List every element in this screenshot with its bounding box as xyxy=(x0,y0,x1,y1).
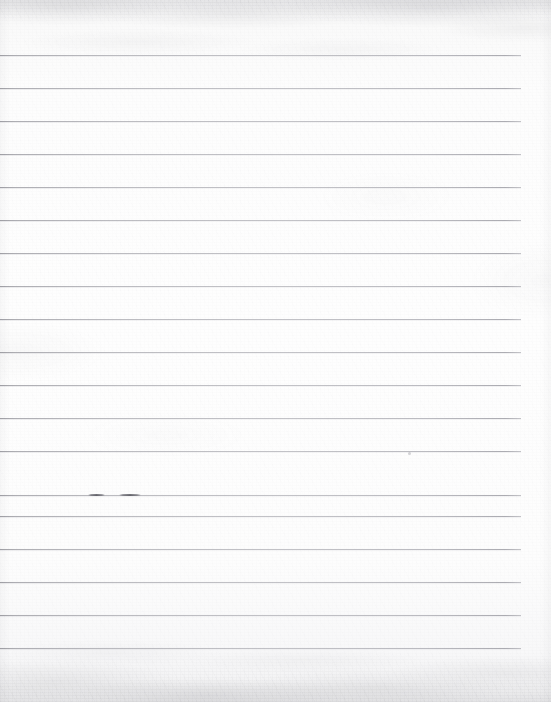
paper-speck xyxy=(408,452,411,455)
scanned-page xyxy=(0,0,551,702)
pencil-dash-mark xyxy=(88,494,105,496)
handwriting-mark-layer xyxy=(0,0,551,702)
pencil-dash-mark xyxy=(119,494,141,496)
